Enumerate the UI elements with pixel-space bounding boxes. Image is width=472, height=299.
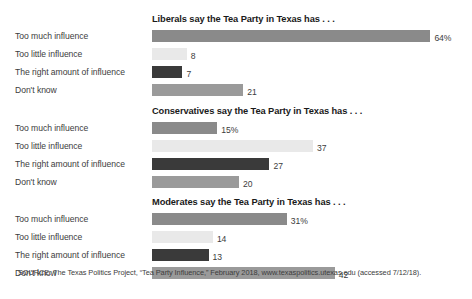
bar xyxy=(152,213,287,225)
bar-track: 20 xyxy=(152,176,452,188)
bar xyxy=(152,66,182,78)
panel-rows: Too much influence 64% Too little influe… xyxy=(0,28,472,100)
row-label: The right amount of influence xyxy=(15,67,125,77)
row-label: Too much influence xyxy=(15,31,88,41)
bar-track: 31% xyxy=(152,213,452,225)
panel-rows: Too much influence 15% Too little influe… xyxy=(0,120,472,192)
chart-row: Too much influence 64% xyxy=(0,28,472,46)
source-note: SOURCE: The Texas Politics Project, “Tea… xyxy=(18,268,464,279)
bar xyxy=(152,48,187,60)
chart-row: Too little influence 37 xyxy=(0,138,472,156)
bar xyxy=(152,249,209,261)
bar-value-label: 37 xyxy=(317,143,326,153)
bar xyxy=(152,30,430,42)
bar-value-label: 15% xyxy=(221,125,238,135)
bar xyxy=(152,231,213,243)
chart-row: Too much influence 31% xyxy=(0,211,472,229)
bar-track: 15% xyxy=(152,122,452,134)
bar-track: 14 xyxy=(152,231,452,243)
bar-track: 7 xyxy=(152,66,452,78)
bar xyxy=(152,176,239,188)
row-label: Too little influence xyxy=(15,141,82,151)
bar xyxy=(152,84,243,96)
tea-party-influence-chart: Liberals say the Tea Party in Texas has … xyxy=(0,0,472,299)
bar-track: 21 xyxy=(152,84,452,96)
bar-value-label: 21 xyxy=(247,87,256,97)
bar-value-label: 20 xyxy=(243,179,252,189)
bar-track: 13 xyxy=(152,249,452,261)
bar-value-label: 8 xyxy=(191,51,196,61)
bar-value-label: 64% xyxy=(434,33,451,43)
row-label: Too little influence xyxy=(15,232,82,242)
bar-track: 64% xyxy=(152,30,452,42)
panel-title: Conservatives say the Tea Party in Texas… xyxy=(152,106,362,116)
chart-row: Too much influence 15% xyxy=(0,120,472,138)
row-label: Too much influence xyxy=(15,123,88,133)
bar-value-label: 13 xyxy=(213,252,222,262)
panel-title: Liberals say the Tea Party in Texas has … xyxy=(152,14,335,24)
bar-track: 27 xyxy=(152,158,452,170)
bar-track: 8 xyxy=(152,48,452,60)
chart-row: Too little influence 8 xyxy=(0,46,472,64)
row-label: The right amount of influence xyxy=(15,250,125,260)
row-label: Don't know xyxy=(15,85,57,95)
bar-value-label: 27 xyxy=(273,161,282,171)
bar-value-label: 7 xyxy=(186,69,191,79)
row-label: The right amount of influence xyxy=(15,159,125,169)
bar xyxy=(152,158,269,170)
bar xyxy=(152,140,313,152)
chart-row: Don't know 20 xyxy=(0,174,472,192)
row-label: Don't know xyxy=(15,177,57,187)
bar-value-label: 14 xyxy=(217,234,226,244)
bar-track: 37 xyxy=(152,140,452,152)
chart-row: The right amount of influence 13 xyxy=(0,247,472,265)
chart-row: The right amount of influence 7 xyxy=(0,64,472,82)
row-label: Too much influence xyxy=(15,214,88,224)
bar-value-label: 31% xyxy=(291,216,308,226)
chart-row: The right amount of influence 27 xyxy=(0,156,472,174)
bar xyxy=(152,122,217,134)
chart-row: Don't know 21 xyxy=(0,82,472,100)
chart-row: Too little influence 14 xyxy=(0,229,472,247)
row-label: Too little influence xyxy=(15,49,82,59)
panel-title: Moderates say the Tea Party in Texas has… xyxy=(152,197,345,207)
